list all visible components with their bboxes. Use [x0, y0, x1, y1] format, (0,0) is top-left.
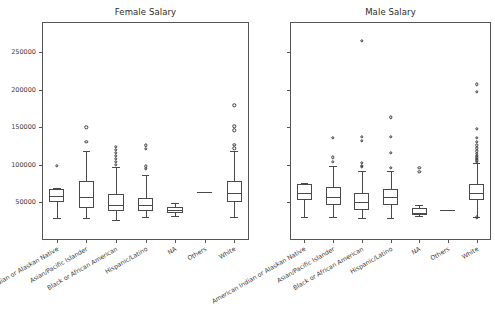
whisker-cap-low	[329, 217, 336, 218]
box-degenerate-line	[440, 210, 455, 211]
y-tick-mark	[39, 165, 42, 166]
whisker-high	[116, 167, 117, 194]
x-tick-mark	[205, 240, 206, 243]
x-tick-mark	[362, 240, 363, 243]
median-line	[297, 193, 312, 194]
box-degenerate-line	[197, 192, 212, 193]
x-tick-mark	[304, 240, 305, 243]
whisker-low	[333, 205, 334, 218]
whisker-cap-high	[83, 151, 91, 152]
median-line	[138, 205, 153, 206]
whisker-high	[333, 166, 334, 187]
median-line	[469, 193, 484, 194]
whisker-high	[146, 175, 147, 198]
whisker-cap-high	[230, 151, 238, 152]
median-line	[354, 202, 369, 203]
whisker-cap-low	[358, 218, 365, 219]
whisker-low	[57, 202, 58, 218]
whisker-cap-high	[112, 167, 120, 168]
whisker-low	[116, 211, 117, 219]
y-tick-mark	[287, 52, 290, 53]
whisker-cap-low	[415, 216, 422, 217]
y-tick-mark	[287, 202, 290, 203]
whisker-low	[304, 200, 305, 217]
y-tick-label: 200000	[0, 86, 36, 94]
whisker-high	[391, 171, 392, 189]
whisker-low	[86, 208, 87, 218]
y-tick-label: 100000	[0, 161, 36, 169]
box	[297, 184, 312, 200]
whisker-cap-low	[142, 217, 150, 218]
x-tick-mark	[57, 240, 58, 243]
x-tick-mark	[86, 240, 87, 243]
x-tick-mark	[477, 240, 478, 243]
y-tick-label: 50000	[0, 198, 36, 206]
y-tick-mark	[39, 127, 42, 128]
y-tick-mark	[39, 202, 42, 203]
whisker-cap-high	[329, 166, 336, 167]
x-tick-mark	[419, 240, 420, 243]
whisker-cap-high	[142, 175, 150, 176]
whisker-cap-low	[83, 218, 91, 219]
whisker-high	[477, 163, 478, 184]
x-tick-label: Others	[186, 245, 208, 261]
x-tick-mark	[146, 240, 147, 243]
whisker-cap-low	[171, 216, 179, 217]
x-tick-label: NA	[411, 245, 422, 255]
whisker-low	[362, 210, 363, 218]
whisker-low	[391, 205, 392, 219]
x-tick-mark	[116, 240, 117, 243]
x-tick-label: NA	[166, 245, 177, 255]
whisker-low	[477, 200, 478, 217]
median-line	[79, 197, 94, 198]
figure-canvas: Female Salary500001000001500002000002500…	[0, 0, 495, 320]
box	[108, 194, 123, 211]
median-line	[227, 193, 242, 194]
whisker-high	[362, 171, 363, 194]
y-tick-label: 250000	[0, 48, 36, 56]
median-line	[49, 196, 64, 197]
whisker-cap-high	[171, 203, 179, 204]
whisker-cap-low	[301, 217, 308, 218]
x-tick-label: American Indian or Alaskan Native	[0, 245, 59, 305]
x-tick-label: Others	[429, 245, 451, 261]
x-tick-mark	[234, 240, 235, 243]
box	[79, 181, 94, 208]
median-line	[412, 214, 427, 215]
y-tick-mark	[39, 52, 42, 53]
y-tick-mark	[287, 165, 290, 166]
x-tick-label: White	[460, 245, 479, 260]
whisker-cap-low	[53, 218, 61, 219]
whisker-high	[234, 151, 235, 180]
box	[227, 181, 242, 203]
whisker-cap-low	[112, 220, 120, 221]
y-tick-mark	[287, 127, 290, 128]
whisker-low	[234, 202, 235, 216]
whisker-cap-low	[230, 217, 238, 218]
chart-title: Female Salary	[42, 7, 249, 17]
x-tick-mark	[333, 240, 334, 243]
whisker-cap-high	[387, 171, 394, 172]
x-tick-mark	[175, 240, 176, 243]
median-line	[167, 210, 182, 211]
whisker-cap-low	[387, 218, 394, 219]
y-tick-mark	[39, 90, 42, 91]
whisker-cap-high	[415, 205, 422, 206]
y-tick-label: 150000	[0, 123, 36, 131]
median-line	[326, 197, 341, 198]
whisker-high	[86, 151, 87, 181]
box	[326, 187, 341, 205]
median-line	[383, 197, 398, 198]
x-tick-mark	[448, 240, 449, 243]
whisker-cap-high	[358, 171, 365, 172]
chart-title: Male Salary	[290, 7, 491, 17]
y-tick-mark	[287, 90, 290, 91]
median-line	[108, 205, 123, 206]
x-tick-label: White	[218, 245, 237, 260]
x-tick-mark	[391, 240, 392, 243]
